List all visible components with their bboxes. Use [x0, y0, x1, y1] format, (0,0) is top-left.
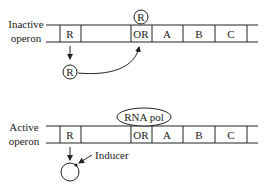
gene-b: B — [195, 28, 202, 40]
active-operon: Active operon R OR A B C RNA pol Inducer — [9, 108, 258, 181]
active-label-line2: operon — [9, 135, 40, 147]
inactive-operon: Inactive operon R OR A B C R R — [8, 10, 258, 79]
inducer-dot — [74, 163, 77, 166]
operator: OR — [133, 28, 149, 40]
inactive-label-line2: operon — [11, 32, 42, 44]
gene-c: C — [227, 28, 234, 40]
inactive-label-line1: Inactive — [8, 18, 44, 30]
gene-r: R — [66, 28, 74, 40]
inducer-arrow — [79, 155, 92, 163]
binding-arrow — [78, 47, 139, 74]
gene-r: R — [66, 129, 74, 141]
gene-a: A — [163, 28, 171, 40]
svg-text:RNA pol: RNA pol — [124, 111, 163, 123]
operator: OR — [133, 129, 149, 141]
active-label-line1: Active — [9, 121, 38, 133]
svg-text:R: R — [137, 11, 145, 23]
inducer-label: Inducer — [95, 149, 129, 161]
gene-c: C — [227, 129, 234, 141]
svg-text:R: R — [66, 66, 74, 78]
gene-b: B — [195, 129, 202, 141]
lac-operon-diagram: Inactive operon R OR A B C R R Active op… — [0, 0, 268, 190]
gene-a: A — [163, 129, 171, 141]
